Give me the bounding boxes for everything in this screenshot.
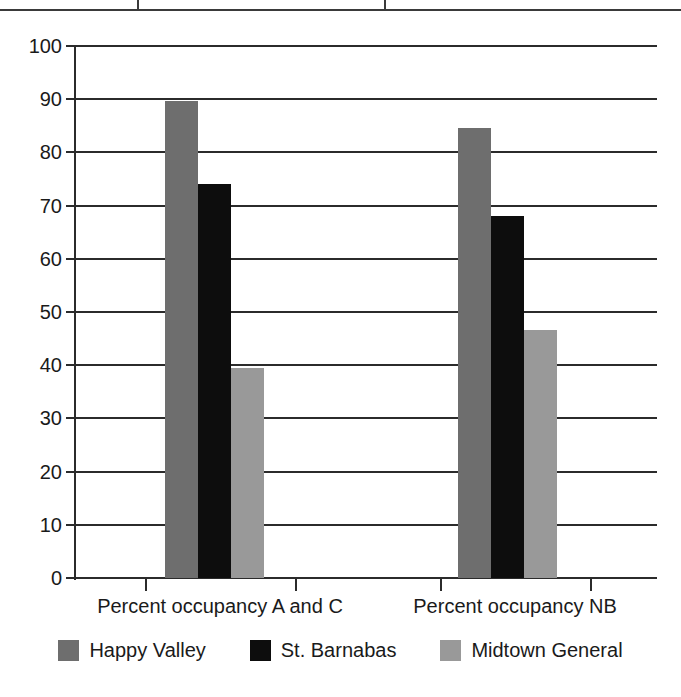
- bar: [524, 330, 557, 578]
- y-axis-tick: [66, 205, 74, 207]
- y-axis-tick-label-text: 40: [4, 355, 62, 375]
- legend-item: St. Barnabas: [250, 639, 397, 661]
- legend-label: Midtown General: [471, 639, 622, 661]
- legend-item: Midtown General: [440, 639, 622, 661]
- y-axis-tick-label-text: 0: [4, 568, 62, 588]
- x-axis-tick: [295, 579, 297, 591]
- y-axis-tick-label-text: 80: [4, 142, 62, 162]
- y-axis-tick: [66, 577, 74, 579]
- legend-label: Happy Valley: [89, 639, 205, 661]
- x-axis-tick: [440, 579, 442, 591]
- y-axis-tick-label: 20: [0, 462, 62, 482]
- y-axis-tick: [66, 471, 74, 473]
- bar: [198, 184, 231, 578]
- legend-swatch-icon: [440, 640, 461, 661]
- bar: [491, 216, 524, 578]
- y-axis-tick: [66, 45, 74, 47]
- legend-swatch-icon: [58, 640, 79, 661]
- y-axis-tick: [66, 258, 74, 260]
- y-axis-tick-label: 40: [0, 355, 62, 375]
- y-axis-tick-label-text: 90: [4, 89, 62, 109]
- y-axis-tick-label: 60: [0, 249, 62, 269]
- y-axis-tick-label: 90: [0, 89, 62, 109]
- y-axis-tick: [66, 311, 74, 313]
- x-axis-tick: [590, 579, 592, 591]
- y-axis-tick: [66, 151, 74, 153]
- y-axis-tick-label-text: 60: [4, 249, 62, 269]
- y-axis-tick: [66, 364, 74, 366]
- bar-series-layer: [74, 46, 657, 578]
- legend-item: Happy Valley: [58, 639, 205, 661]
- y-axis-tick-label: 30: [0, 408, 62, 428]
- y-axis-tick-label-text: 50: [4, 302, 62, 322]
- chart-page: 0102030405060708090100 Percent occupancy…: [0, 0, 681, 697]
- y-axis-tick-label: 0: [0, 568, 62, 588]
- legend-swatch-icon: [250, 640, 271, 661]
- y-axis-tick-label-text: 10: [4, 515, 62, 535]
- y-axis-tick-label: 10: [0, 515, 62, 535]
- y-axis-tick-label: 100: [0, 36, 62, 56]
- x-axis-tick: [145, 579, 147, 591]
- y-axis-tick: [66, 98, 74, 100]
- y-axis-tick-label: 80: [0, 142, 62, 162]
- y-axis-tick-label-text: 20: [4, 462, 62, 482]
- bar: [458, 128, 491, 578]
- y-axis-tick-label-text: 30: [4, 408, 62, 428]
- y-axis-tick-label-text: 100: [4, 36, 62, 56]
- y-axis-tick-label-text: 70: [4, 196, 62, 216]
- x-axis-category-label: Percent occupancy NB: [355, 594, 675, 618]
- cropped-figure-tick: [384, 0, 386, 10]
- y-axis-tick-label: 50: [0, 302, 62, 322]
- bar: [231, 368, 264, 578]
- cropped-figure-rule: [0, 9, 681, 11]
- y-axis-tick: [66, 417, 74, 419]
- legend-label: St. Barnabas: [281, 639, 397, 661]
- bar: [165, 101, 198, 578]
- chart-legend: Happy ValleySt. BarnabasMidtown General: [0, 639, 681, 661]
- y-axis-tick: [66, 524, 74, 526]
- cropped-figure-tick: [137, 0, 139, 10]
- y-axis-tick-label: 70: [0, 196, 62, 216]
- x-axis-category-label: Percent occupancy A and C: [60, 594, 380, 618]
